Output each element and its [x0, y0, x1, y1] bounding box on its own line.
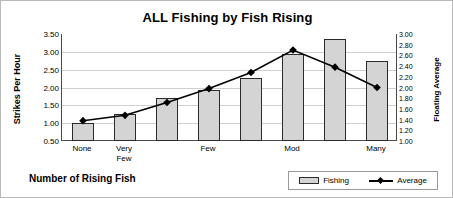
y-axis-right-tick-label: 2.40 — [399, 63, 425, 70]
data-point-marker — [289, 46, 297, 54]
plot-area — [61, 34, 397, 141]
data-point-marker — [205, 85, 213, 93]
y-axis-left-title-text: Strikes Per Hour — [12, 54, 22, 125]
y-axis-left-tick-label: 3.50 — [31, 30, 59, 39]
y-axis-right-tick-label: 2.60 — [399, 52, 425, 59]
y-axis-left-tick-label: 1.50 — [31, 101, 59, 110]
y-axis-right-title: Floating Average — [425, 34, 447, 144]
y-axis-right-tick-label: 1.40 — [399, 116, 425, 123]
chart-container: ALL Fishing by Fish Rising Strikes Per H… — [0, 0, 453, 198]
y-axis-left-tick-label: 2.00 — [31, 83, 59, 92]
y-axis-right-tick-label: 1.60 — [399, 105, 425, 112]
y-axis-right-tick-label: 1.20 — [399, 127, 425, 134]
data-point-marker — [79, 117, 87, 125]
x-axis-ticks: NoneVery FewFewModMany — [1, 144, 453, 172]
y-axis-right-tick-label: 2.20 — [399, 73, 425, 80]
data-point-marker — [373, 84, 381, 92]
line-marker-swatch-icon — [369, 176, 393, 185]
average-polyline — [83, 50, 377, 121]
chart-title: ALL Fishing by Fish Rising — [1, 10, 453, 25]
y-axis-right-tick-label: 2.00 — [399, 84, 425, 91]
line-series-average — [62, 34, 396, 140]
chart-legend: Fishing Average — [288, 171, 438, 190]
legend-label-average: Average — [397, 176, 427, 185]
data-point-marker — [163, 99, 171, 107]
x-axis-tick-label: Very Few — [97, 144, 151, 164]
y-axis-left-tick-label: 1.00 — [31, 119, 59, 128]
data-point-marker — [121, 112, 129, 120]
x-axis-tick-label: Few — [181, 144, 235, 154]
x-axis-tick-label: Mod — [265, 144, 319, 154]
y-axis-right-tick-label: 3.00 — [399, 31, 425, 38]
y-axis-right-tick-label: 2.80 — [399, 41, 425, 48]
data-point-marker — [331, 63, 339, 71]
y-axis-right-title-text: Floating Average — [432, 57, 441, 121]
y-axis-left-title: Strikes Per Hour — [7, 34, 27, 144]
data-point-marker — [247, 69, 255, 77]
legend-item-average: Average — [369, 176, 427, 185]
x-axis-tick-label: Many — [349, 144, 403, 154]
legend-item-fishing: Fishing — [299, 176, 349, 185]
y-axis-left-tick-label: 2.50 — [31, 65, 59, 74]
average-line-svg — [62, 34, 398, 141]
legend-label-fishing: Fishing — [323, 176, 349, 185]
y-axis-right-tick-label: 1.80 — [399, 95, 425, 102]
bar-swatch-icon — [299, 177, 319, 184]
y-axis-left-tick-label: 3.00 — [31, 47, 59, 56]
